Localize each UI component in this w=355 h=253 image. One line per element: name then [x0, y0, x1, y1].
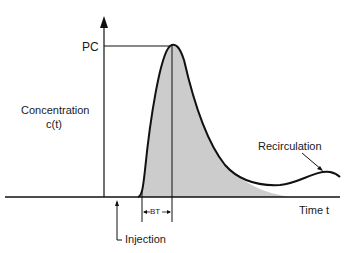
injection-arrow-icon — [115, 200, 119, 206]
bolus-time-label: BT — [150, 207, 160, 216]
bt-arrow-left-icon — [143, 210, 147, 214]
y-axis-label-symbol: c(t) — [46, 118, 62, 130]
injection-label: Injection — [125, 233, 166, 245]
y-axis-arrow-icon — [100, 16, 108, 28]
recirculation-label: Recirculation — [258, 140, 322, 152]
x-axis-label: Time t — [299, 204, 329, 216]
peak-label: PC — [82, 40, 99, 54]
y-axis-label: Concentration — [21, 104, 90, 116]
bt-arrow-right-icon — [167, 210, 171, 214]
